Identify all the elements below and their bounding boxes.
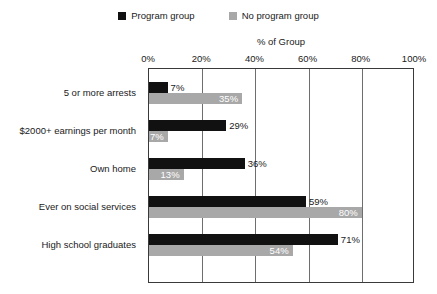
bar xyxy=(149,82,168,93)
bar-value-label: 29% xyxy=(226,120,248,131)
bar xyxy=(149,207,362,218)
legend-swatch-no-program-group xyxy=(229,12,237,20)
x-tick-label: 20% xyxy=(192,53,211,64)
legend-label-no-program-group: No program group xyxy=(242,10,319,21)
x-tick-label: 60% xyxy=(298,53,317,64)
y-axis-category-labels: 5 or more arrests$2000+ earnings per mon… xyxy=(0,68,142,283)
bar-value-label: 54% xyxy=(270,245,293,256)
y-category-label: Ever on social services xyxy=(39,201,136,212)
bar-value-label: 71% xyxy=(338,234,360,245)
bar xyxy=(149,120,226,131)
y-category-label: $2000+ earnings per month xyxy=(20,125,136,136)
x-axis-tick-labels: 0%20%40%60%80%100% xyxy=(148,53,414,65)
legend-item-no-program-group: No program group xyxy=(229,10,319,21)
x-tick-label: 100% xyxy=(402,53,426,64)
x-axis-title: % of Group xyxy=(148,36,414,47)
legend-swatch-program-group xyxy=(118,12,126,20)
bar xyxy=(149,234,338,245)
x-tick-label: 0% xyxy=(141,53,155,64)
bar-value-label: 7% xyxy=(168,82,185,93)
x-tick-label: 80% xyxy=(351,53,370,64)
bar-value-label: 13% xyxy=(161,169,184,180)
bar-series-container: 7%35%29%7%36%13%59%80%71%54% xyxy=(149,69,413,282)
bar-value-label: 7% xyxy=(150,131,168,142)
x-tick-label: 40% xyxy=(245,53,264,64)
y-category-label: High school graduates xyxy=(41,239,136,250)
bar-value-label: 80% xyxy=(339,207,362,218)
legend-item-program-group: Program group xyxy=(118,10,194,21)
bar xyxy=(149,158,245,169)
bar-value-label: 36% xyxy=(245,158,267,169)
bar-value-label: 59% xyxy=(306,196,328,207)
bar-value-label: 35% xyxy=(219,93,242,104)
plot-area: 7%35%29%7%36%13%59%80%71%54% xyxy=(148,68,414,283)
y-category-label: 5 or more arrests xyxy=(64,87,136,98)
legend-label-program-group: Program group xyxy=(131,10,194,21)
chart-legend: Program group No program group xyxy=(0,10,437,21)
y-category-label: Own home xyxy=(90,163,136,174)
bar xyxy=(149,196,306,207)
